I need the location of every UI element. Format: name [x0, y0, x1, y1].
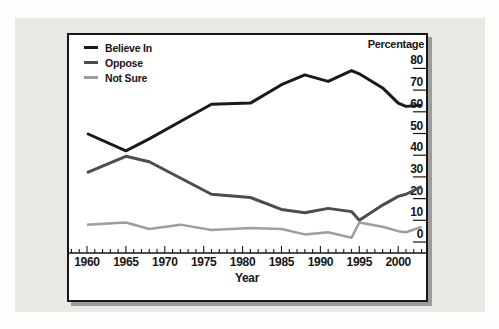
y-tick-label: 80 — [410, 53, 423, 67]
x-tick-label: 1960 — [74, 255, 100, 269]
x-tick-label: 1990 — [308, 255, 334, 269]
legend-item-not-sure: Not Sure — [84, 70, 194, 85]
figure-panel: 1960196519701975198019851990199520000102… — [15, 18, 485, 312]
x-axis-title: Year — [235, 271, 259, 285]
chart-legend: Believe In Oppose Not Sure — [84, 40, 194, 85]
x-tick-label: 1985 — [269, 255, 295, 269]
x-tick-label: 1980 — [230, 255, 256, 269]
y-tick-label: 60 — [410, 97, 423, 111]
legend-item-oppose: Oppose — [84, 55, 194, 70]
legend-label-not-sure: Not Sure — [105, 72, 147, 84]
y-tick-label: 30 — [410, 162, 423, 176]
series-line-not-sure — [87, 222, 422, 237]
y-tick-label: 70 — [410, 75, 423, 89]
x-tick-label: 1965 — [113, 255, 139, 269]
x-tick-label: 1975 — [191, 255, 217, 269]
legend-swatch-not-sure — [84, 76, 98, 79]
y-tick-label: 40 — [410, 140, 423, 154]
x-tick-label: 1995 — [347, 255, 373, 269]
y-tick-label: 10 — [410, 205, 423, 219]
x-tick-label: 2000 — [385, 255, 411, 269]
y-axis-title: Percentage — [368, 38, 424, 50]
series-line-oppose — [87, 156, 422, 220]
legend-swatch-oppose — [84, 61, 98, 64]
chart-frame: 1960196519701975198019851990199520000102… — [67, 33, 428, 302]
y-tick-label: 50 — [410, 119, 423, 133]
x-tick-label: 1970 — [152, 255, 178, 269]
legend-swatch-believe-in — [84, 46, 98, 49]
legend-item-believe-in: Believe In — [84, 40, 194, 55]
legend-label-believe-in: Believe In — [105, 42, 152, 54]
legend-label-oppose: Oppose — [105, 57, 143, 69]
